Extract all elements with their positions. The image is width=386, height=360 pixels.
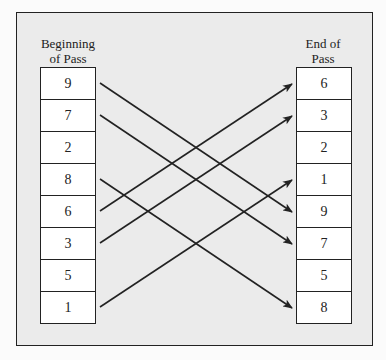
end-of-pass-label: End of Pass <box>283 36 363 66</box>
right-cell-2: 3 <box>297 100 351 132</box>
right-cell-4: 1 <box>297 164 351 196</box>
right-cell-3: 2 <box>297 132 351 164</box>
left-cell-1: 9 <box>41 68 95 100</box>
beginning-of-pass-column: 9 7 2 8 6 3 5 1 <box>40 67 96 324</box>
left-cell-8: 1 <box>41 292 95 323</box>
right-cell-7: 5 <box>297 260 351 292</box>
right-cell-6: 7 <box>297 228 351 260</box>
left-cell-4: 8 <box>41 164 95 196</box>
left-cell-5: 6 <box>41 196 95 228</box>
left-label-line-2: of Pass <box>28 51 108 66</box>
left-cell-6: 3 <box>41 228 95 260</box>
left-cell-2: 7 <box>41 100 95 132</box>
right-label-line-1: End of <box>283 36 363 51</box>
end-of-pass-column: 6 3 2 1 9 7 5 8 <box>296 67 352 324</box>
right-label-line-2: Pass <box>283 51 363 66</box>
beginning-of-pass-label: Beginning of Pass <box>28 36 108 66</box>
left-label-line-1: Beginning <box>28 36 108 51</box>
right-cell-8: 8 <box>297 292 351 323</box>
right-cell-1: 6 <box>297 68 351 100</box>
left-cell-7: 5 <box>41 260 95 292</box>
left-cell-3: 2 <box>41 132 95 164</box>
right-cell-5: 9 <box>297 196 351 228</box>
